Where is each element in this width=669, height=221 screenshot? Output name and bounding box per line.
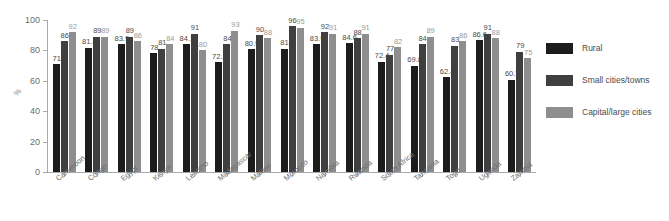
legend-swatch: [546, 75, 573, 86]
bar-value-label: 91: [355, 24, 377, 32]
bar: [492, 38, 499, 172]
bar-value-label: 88: [257, 29, 279, 37]
bar-group: 72.28493: [215, 20, 238, 172]
bar: [93, 37, 100, 172]
bar-value-label: 91: [322, 24, 344, 32]
bar-group: 83.98986: [118, 20, 141, 172]
bar: [281, 49, 288, 172]
bar: [256, 35, 263, 172]
legend-label: Rural: [582, 43, 602, 53]
legend-label: Capital/large cities: [582, 107, 651, 117]
legend-item: Capital/large cities: [546, 100, 666, 124]
legend-label: Small cities/towns: [582, 75, 650, 85]
bar: [378, 62, 385, 172]
y-axis-tick-label: 40: [0, 107, 40, 116]
bar-group: 83.99291: [313, 20, 336, 172]
bar: [362, 34, 369, 172]
bar: [476, 40, 483, 172]
bar: [386, 55, 393, 172]
bar: [321, 32, 328, 172]
bar: [451, 46, 458, 172]
y-axis-tick-label: 0: [0, 168, 40, 177]
bar: [313, 44, 320, 172]
bar-value-label: 82: [387, 38, 409, 46]
bar-value-label: 80: [192, 41, 214, 49]
bar: [419, 44, 426, 172]
bar-chart: % 020406080100 71869281.8898983.98986788…: [0, 0, 669, 221]
bar: [346, 43, 353, 172]
bar-value-label: 88: [485, 29, 507, 37]
bar: [69, 32, 76, 172]
bar-value-label: 95: [290, 18, 312, 26]
legend-swatch: [546, 43, 573, 54]
bar-value-label: 92: [62, 23, 84, 31]
bar-value-label: 91: [184, 24, 206, 32]
bar: [516, 52, 523, 172]
bar: [191, 34, 198, 172]
bar: [297, 28, 304, 172]
bar: [53, 64, 60, 172]
bar-value-label: 75: [517, 49, 539, 57]
bar-value-label: 93: [224, 21, 246, 29]
bar: [118, 44, 125, 172]
bar-group: 819695: [281, 20, 304, 172]
y-axis-title: %: [12, 87, 23, 98]
y-axis-tick-label: 20: [0, 138, 40, 147]
bar-group: 81.88989: [85, 20, 108, 172]
bar-group: 86.69188: [476, 20, 499, 172]
legend-item: Small cities/towns: [546, 68, 666, 92]
bar: [289, 26, 296, 172]
bar-value-label: 89: [420, 27, 442, 35]
bar-group: 718692: [53, 20, 76, 172]
bar-group: 80.99088: [248, 20, 271, 172]
plot-area: 71869281.8898983.9898678818484.1918072.2…: [47, 20, 535, 172]
legend-item: Rural: [546, 36, 666, 60]
legend-swatch: [546, 107, 573, 118]
bar: [264, 38, 271, 172]
bar: [231, 31, 238, 172]
bar: [183, 44, 190, 172]
bar-group: 60.77975: [508, 20, 531, 172]
bar: [85, 48, 92, 172]
bar-group: 69.88489: [411, 20, 434, 172]
bar-group: 84.68891: [346, 20, 369, 172]
bar: [215, 62, 222, 172]
chart-legend: RuralSmall cities/townsCapital/large cit…: [546, 36, 666, 132]
bar: [126, 37, 133, 172]
bar: [101, 37, 108, 172]
y-axis-tick-label: 60: [0, 77, 40, 86]
bar: [394, 47, 401, 172]
bar-group: 84.19180: [183, 20, 206, 172]
bar: [524, 58, 531, 172]
bar-group: 72.47782: [378, 20, 401, 172]
bar: [199, 50, 206, 172]
bar: [459, 41, 466, 172]
bar: [134, 41, 141, 172]
bar: [61, 41, 68, 172]
bar: [354, 38, 361, 172]
bar: [329, 34, 336, 172]
bar-group: 788184: [150, 20, 173, 172]
bar: [443, 77, 450, 172]
y-axis-tick-label: 80: [0, 46, 40, 55]
bar: [166, 44, 173, 172]
bar: [427, 37, 434, 172]
bar-value-label: 86: [127, 32, 149, 40]
bar: [158, 49, 165, 172]
bar: [150, 53, 157, 172]
bar: [223, 44, 230, 172]
bar: [484, 34, 491, 172]
bar: [508, 80, 515, 172]
y-axis-tick: [43, 172, 48, 173]
bar-group: 62.48386: [443, 20, 466, 172]
y-axis-tick-label: 100: [0, 16, 40, 25]
